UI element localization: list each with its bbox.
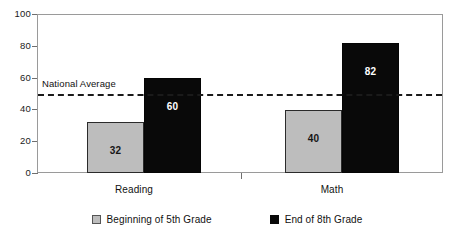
legend-label-end-8th-grade: End of 8th Grade: [285, 214, 363, 225]
legend-swatch-black-icon: [270, 215, 279, 224]
national-average-line: [38, 94, 442, 96]
y-tick-label-0: 0: [1, 168, 31, 178]
legend-label-beginning-5th-grade: Beginning of 5th Grade: [107, 214, 212, 225]
y-tick-label-60: 60: [1, 73, 31, 83]
y-axis: 100 80 60 40 20 0: [0, 14, 31, 173]
bar-math-end-8th-grade[interactable]: 82: [342, 43, 399, 173]
x-category-label-reading: Reading: [115, 184, 153, 195]
y-tick-label-100: 100: [1, 9, 31, 19]
legend-item-end-8th-grade[interactable]: End of 8th Grade: [270, 214, 363, 225]
y-tick-label-80: 80: [1, 41, 31, 51]
y-tick-label-40: 40: [1, 105, 31, 115]
plot-area: 32 60 40 82 National Average: [38, 15, 442, 173]
bar-value-math-beginning: 40: [286, 133, 341, 144]
x-category-label-math: Math: [321, 184, 344, 195]
bar-value-math-end: 82: [343, 66, 398, 77]
y-tick-label-20: 20: [1, 136, 31, 146]
x-tick-mark-divider: [241, 173, 242, 179]
bar-value-reading-end: 60: [145, 101, 200, 112]
bar-math-beginning-5th-grade[interactable]: 40: [285, 110, 342, 173]
bar-value-reading-beginning: 32: [88, 145, 143, 156]
y-tick-mark-0: [32, 173, 38, 174]
chart-legend: Beginning of 5th Grade End of 8th Grade: [0, 214, 454, 225]
bar-chart: 100 80 60 40 20 0 32 60 40 82 National A…: [0, 0, 454, 241]
national-average-label: National Average: [42, 78, 116, 89]
bar-reading-beginning-5th-grade[interactable]: 32: [87, 122, 144, 173]
legend-swatch-gray-icon: [92, 215, 101, 224]
bar-reading-end-8th-grade[interactable]: 60: [144, 78, 201, 173]
legend-item-beginning-5th-grade[interactable]: Beginning of 5th Grade: [92, 214, 212, 225]
